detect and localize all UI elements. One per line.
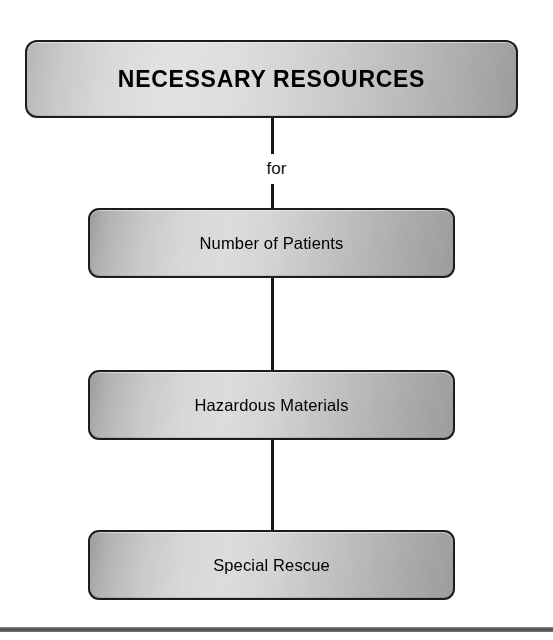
flowchart-diagram: NECESSARY RESOURCES for Number of Patien… xyxy=(0,0,553,640)
connector-for-to-node-1 xyxy=(271,184,274,208)
flowchart-node-label: Special Rescue xyxy=(203,556,340,575)
flowchart-node-label: Number of Patients xyxy=(190,234,354,253)
flowchart-header-label: NECESSARY RESOURCES xyxy=(108,66,435,93)
connector-header-to-for xyxy=(271,118,274,154)
edge-label-for: for xyxy=(0,154,553,184)
flowchart-header-node: NECESSARY RESOURCES xyxy=(25,40,518,118)
flowchart-node-hazardous-materials: Hazardous Materials xyxy=(88,370,455,440)
connector-node-2-to-node-3 xyxy=(271,440,274,530)
edge-label-for-text: for xyxy=(267,159,287,179)
flowchart-node-special-rescue: Special Rescue xyxy=(88,530,455,600)
connector-node-1-to-node-2 xyxy=(271,278,274,370)
flowchart-node-number-of-patients: Number of Patients xyxy=(88,208,455,278)
bottom-divider-rule xyxy=(0,627,553,632)
flowchart-node-label: Hazardous Materials xyxy=(184,396,358,415)
